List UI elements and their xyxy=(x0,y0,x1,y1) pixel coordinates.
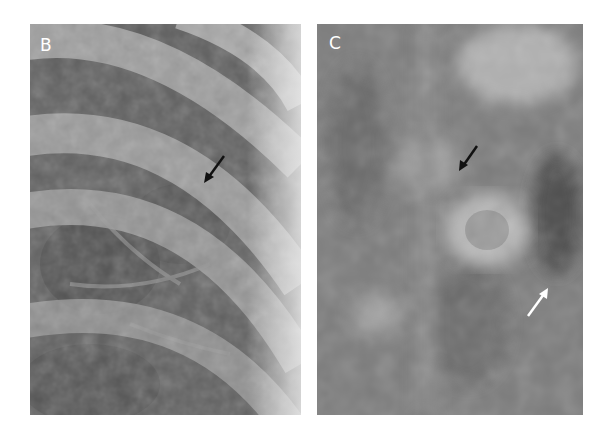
white-arrow-icon xyxy=(525,286,551,318)
tomogram-panel-c: C xyxy=(317,24,583,415)
rib-radiograph-image xyxy=(30,24,301,415)
tomogram-image xyxy=(317,24,583,415)
black-arrow-icon xyxy=(202,154,228,184)
panel-label-b: B xyxy=(40,37,52,54)
panel-label-c: C xyxy=(329,35,341,52)
radiograph-panel-b: B xyxy=(30,24,301,415)
black-arrow-icon xyxy=(457,144,481,172)
